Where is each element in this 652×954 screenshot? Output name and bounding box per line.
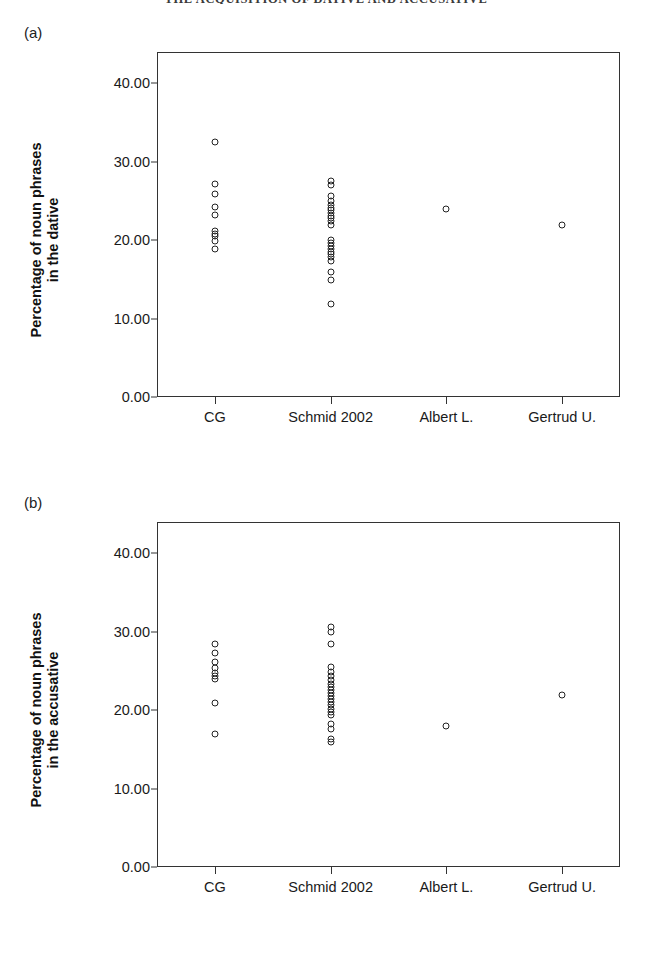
y-tick-label: 30.00 xyxy=(114,154,150,170)
data-point xyxy=(327,221,334,228)
data-point xyxy=(327,628,334,635)
data-point xyxy=(559,221,566,228)
data-point xyxy=(211,731,218,738)
y-tick-label: 0.00 xyxy=(122,389,150,405)
y-tick-mark xyxy=(151,161,157,162)
y-tick-mark xyxy=(151,83,157,84)
y-tick-mark xyxy=(151,631,157,632)
y-tick-label: 10.00 xyxy=(114,781,150,797)
data-point xyxy=(443,205,450,212)
data-point xyxy=(327,641,334,648)
y-tick-label: 20.00 xyxy=(114,702,150,718)
data-point xyxy=(211,237,218,244)
y-axis-title-a: Percentage of noun phrases in the dative xyxy=(25,30,65,450)
plot-frame-b xyxy=(157,522,620,867)
data-point xyxy=(211,649,218,656)
data-point xyxy=(327,300,334,307)
y-tick-mark xyxy=(151,867,157,868)
data-point xyxy=(559,691,566,698)
y-tick-label: 10.00 xyxy=(114,311,150,327)
y-axis-title-a-line2: in the dative xyxy=(45,198,61,283)
data-point xyxy=(327,257,334,264)
y-tick-mark xyxy=(151,318,157,319)
data-point xyxy=(211,245,218,252)
x-tick-mark xyxy=(331,867,332,874)
y-tick-mark xyxy=(151,553,157,554)
data-point xyxy=(211,139,218,146)
data-point xyxy=(211,212,218,219)
x-tick-mark xyxy=(446,397,447,404)
plot-area-a: 0.0010.0020.0030.0040.00CGSchmid 2002Alb… xyxy=(157,52,620,397)
data-point xyxy=(327,181,334,188)
data-point xyxy=(327,277,334,284)
data-point xyxy=(327,711,334,718)
x-axis-category-label: Albert L. xyxy=(419,879,473,895)
y-axis-title-b-line1: Percentage of noun phrases xyxy=(28,613,44,808)
y-tick-mark xyxy=(151,397,157,398)
data-point xyxy=(211,641,218,648)
data-point xyxy=(211,700,218,707)
figure-panel-a: (a) Percentage of noun phrases in the da… xyxy=(0,18,652,478)
y-tick-mark xyxy=(151,240,157,241)
plot-frame-a xyxy=(157,52,620,397)
data-point xyxy=(211,180,218,187)
data-point xyxy=(211,190,218,197)
data-point xyxy=(327,269,334,276)
y-tick-label: 20.00 xyxy=(114,232,150,248)
x-axis-category-label: Schmid 2002 xyxy=(288,879,373,895)
x-tick-mark xyxy=(215,867,216,874)
x-axis-category-label: Gertrud U. xyxy=(528,409,596,425)
data-point xyxy=(443,722,450,729)
x-axis-category-label: Albert L. xyxy=(419,409,473,425)
y-tick-mark xyxy=(151,710,157,711)
plot-area-b: 0.0010.0020.0030.0040.00CGSchmid 2002Alb… xyxy=(157,522,620,867)
y-tick-label: 40.00 xyxy=(114,545,150,561)
x-tick-mark xyxy=(562,397,563,404)
data-point xyxy=(327,739,334,746)
y-tick-mark xyxy=(151,788,157,789)
x-tick-mark xyxy=(562,867,563,874)
x-tick-mark xyxy=(215,397,216,404)
data-point xyxy=(211,204,218,211)
x-axis-category-label: Schmid 2002 xyxy=(288,409,373,425)
figure-panel-b: (b) Percentage of noun phrases in the ac… xyxy=(0,488,652,948)
y-tick-label: 40.00 xyxy=(114,75,150,91)
data-point xyxy=(211,675,218,682)
x-tick-mark xyxy=(446,867,447,874)
y-axis-title-b: Percentage of noun phrases in the accusa… xyxy=(25,500,65,920)
x-axis-category-label: Gertrud U. xyxy=(528,879,596,895)
x-tick-mark xyxy=(331,397,332,404)
data-point xyxy=(327,726,334,733)
x-axis-category-label: CG xyxy=(204,409,226,425)
x-axis-category-label: CG xyxy=(204,879,226,895)
y-axis-title-a-line1: Percentage of noun phrases xyxy=(28,143,44,338)
y-tick-label: 30.00 xyxy=(114,624,150,640)
running-head: THE ACQUISITION OF DATIVE AND ACCUSATIVE xyxy=(0,0,652,4)
y-axis-title-b-line2: in the accusative xyxy=(45,652,61,769)
y-tick-label: 0.00 xyxy=(122,859,150,875)
